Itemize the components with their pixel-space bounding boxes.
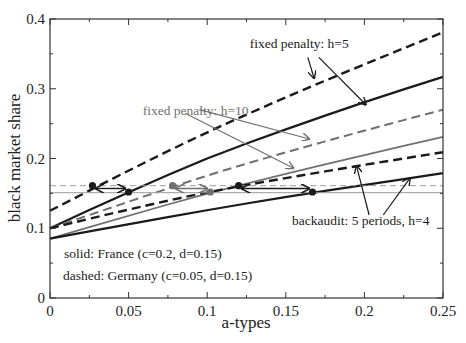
annotation-label-0: fixed penalty: h=5 bbox=[250, 36, 349, 51]
series-line-1 bbox=[50, 77, 443, 228]
annotation-arrow-2-1 bbox=[383, 178, 410, 215]
data-marker-2 bbox=[169, 182, 176, 189]
annotation-label-1: fixed penalty: h=10 bbox=[143, 103, 249, 118]
x-tick-label: 0.1 bbox=[198, 303, 217, 319]
series-line-2 bbox=[50, 110, 443, 229]
x-tick-label: 0 bbox=[46, 303, 54, 319]
x-tick-label: 0.25 bbox=[430, 303, 456, 319]
y-axis-label: black market share bbox=[5, 94, 24, 222]
x-axis-label: a-types bbox=[221, 313, 270, 332]
legend-solid: solid: France (c=0.2, d=0.15) bbox=[64, 246, 222, 261]
data-marker-4 bbox=[235, 182, 242, 189]
legend-dashed: dashed: Germany (c=0.05, d=0.15) bbox=[63, 268, 252, 283]
y-tick-label: 0.2 bbox=[26, 151, 45, 167]
y-tick-label: 0.3 bbox=[26, 81, 45, 97]
series-layer bbox=[50, 32, 443, 238]
data-marker-5 bbox=[309, 188, 316, 195]
x-tick-label: 0.15 bbox=[273, 303, 299, 319]
chart: 00.050.10.150.20.2500.10.20.30.4 solid: … bbox=[0, 0, 466, 343]
y-tick-label: 0.4 bbox=[26, 11, 45, 27]
annotation-label-2: backaudit: 5 periods, h=4 bbox=[292, 213, 430, 228]
annotation-arrow-0-1 bbox=[319, 57, 366, 104]
annotation-arrow-1-0 bbox=[199, 110, 309, 139]
y-tick-label: 0.1 bbox=[26, 220, 45, 236]
x-tick-label: 0.05 bbox=[115, 303, 141, 319]
y-tick-label: 0 bbox=[38, 290, 46, 306]
data-marker-3 bbox=[207, 188, 214, 195]
data-marker-1 bbox=[125, 188, 132, 195]
data-marker-0 bbox=[89, 182, 96, 189]
annotation-arrow-2-0 bbox=[357, 166, 370, 215]
annotation-arrow-0-0 bbox=[308, 57, 314, 78]
x-tick-label: 0.2 bbox=[355, 303, 374, 319]
